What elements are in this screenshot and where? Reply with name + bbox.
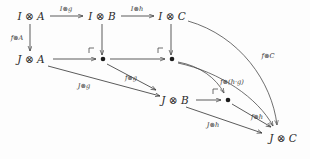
edge-label-fh: f⊗h	[250, 113, 263, 121]
node-label-JC: J ⊗ C	[267, 132, 297, 144]
pullback-corner-mark-1	[89, 48, 94, 53]
edge-label-Ih: I⊗h	[130, 5, 143, 13]
node-label-JA: J ⊗ A	[15, 53, 45, 65]
node-label-JB: J ⊗ B	[159, 94, 189, 106]
edge-IC-JC	[188, 21, 277, 125]
pullback-corner-mark-3	[213, 89, 218, 94]
edge-label-Jh: J⊗h	[205, 121, 219, 129]
diagram-canvas: I ⊗ A I ⊗ B I ⊗ C J ⊗ A J ⊗ B J ⊗ C I⊗g …	[0, 0, 310, 159]
node-dot-p1	[101, 57, 106, 62]
node-label-IC: I ⊗ C	[157, 10, 186, 22]
edge-JA-JB	[48, 66, 160, 96]
node-label-IB: I ⊗ B	[87, 10, 116, 22]
commutative-diagram: I ⊗ A I ⊗ B I ⊗ C J ⊗ A J ⊗ B J ⊗ C I⊗g …	[0, 0, 310, 159]
edge-label-Jg: J⊗g	[76, 82, 90, 90]
pullback-corner-mark-2	[158, 48, 163, 53]
node-dot-p2	[170, 57, 175, 62]
edge-label-fC: f⊗C	[260, 52, 274, 60]
node-dot-p3	[226, 98, 231, 103]
edge-label-fg: f⊗g	[124, 74, 137, 82]
edge-label-Ig: I⊗g	[59, 5, 72, 13]
edge-label-fhg: f⊗(h·g)	[219, 78, 244, 86]
edge-P2-P3	[178, 62, 224, 93]
edge-label-fA: f⊗A	[10, 34, 24, 42]
node-label-IA: I ⊗ A	[16, 10, 45, 22]
